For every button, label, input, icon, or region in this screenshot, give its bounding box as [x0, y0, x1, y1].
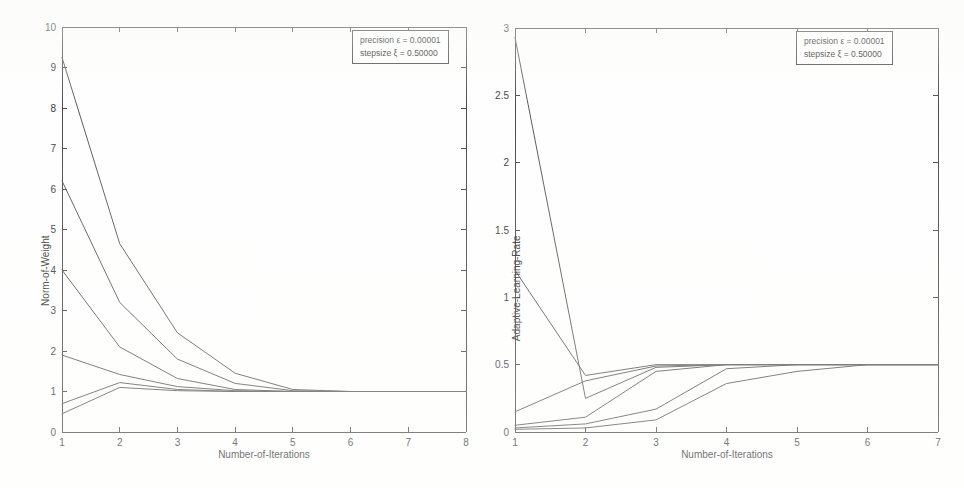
x-tick-label: 2 — [583, 437, 589, 448]
axis-lines-right — [515, 28, 938, 432]
series-line — [62, 57, 466, 391]
axes-left — [62, 27, 466, 432]
plot-svg-right: 1234567 00.511.522.53 Number-of-Iteratio… — [482, 0, 964, 488]
x-tick-label: 7 — [935, 437, 941, 448]
y-ticks-left — [62, 27, 466, 432]
plot-svg-left: 12345678 012345678910 Number-of-Iteratio… — [0, 0, 482, 488]
series-line — [515, 365, 938, 426]
y-tick-label: 2.5 — [495, 90, 509, 101]
y-tick-label: 2 — [503, 157, 509, 168]
axes-right — [515, 28, 938, 432]
y-tick-label: 1 — [503, 292, 509, 303]
series-line — [62, 355, 466, 391]
legend-right: precision ε = 0.00001 stepsize ξ = 0.500… — [796, 31, 893, 65]
series-group-right — [515, 37, 938, 429]
chart-panel-norm-of-weight: 12345678 012345678910 Number-of-Iteratio… — [0, 0, 482, 488]
y-tick-labels-left: 012345678910 — [45, 22, 57, 438]
y-tick-label: 6 — [50, 184, 56, 195]
legend-left-line2: stepsize ξ = 0.50000 — [360, 47, 441, 60]
legend-right-line2: stepsize ξ = 0.50000 — [804, 48, 885, 61]
y-tick-label: 1 — [50, 386, 56, 397]
x-tick-labels-left: 12345678 — [59, 437, 469, 448]
y-tick-label: 8 — [50, 103, 56, 114]
x-tick-label: 8 — [463, 437, 469, 448]
y-tick-label: 3 — [50, 305, 56, 316]
y-axis-title-left: Norm-of-Weight — [40, 236, 51, 306]
y-tick-labels-right: 00.511.522.53 — [495, 23, 509, 438]
y-tick-label: 5 — [50, 224, 56, 235]
axis-lines-left — [62, 27, 466, 432]
series-line — [62, 387, 466, 413]
legend-left: precision ε = 0.00001 stepsize ξ = 0.500… — [352, 30, 449, 64]
x-tick-label: 5 — [794, 437, 800, 448]
y-tick-label: 0 — [503, 427, 509, 438]
x-tick-label: 6 — [348, 437, 354, 448]
x-tick-label: 4 — [232, 437, 238, 448]
figure-canvas: 12345678 012345678910 Number-of-Iteratio… — [0, 0, 964, 488]
chart-panel-adaptive-learning-rate: 1234567 00.511.522.53 Number-of-Iteratio… — [482, 0, 964, 488]
y-ticks-right — [515, 28, 938, 432]
x-axis-title-left: Number-of-Iterations — [218, 449, 310, 460]
x-axis-title-right: Number-of-Iterations — [681, 449, 773, 460]
series-line — [62, 270, 466, 392]
series-line — [515, 365, 938, 412]
y-tick-label: 9 — [50, 62, 56, 73]
y-tick-label: 2 — [50, 346, 56, 357]
y-tick-label: 7 — [50, 143, 56, 154]
y-tick-label: 1.5 — [495, 225, 509, 236]
series-line — [515, 37, 938, 398]
legend-left-line1: precision ε = 0.00001 — [360, 34, 441, 47]
x-ticks-left — [62, 27, 466, 432]
x-tick-label: 1 — [512, 437, 518, 448]
x-tick-label: 3 — [175, 437, 181, 448]
x-tick-label: 6 — [865, 437, 871, 448]
x-tick-label: 3 — [653, 437, 659, 448]
y-axis-title-right: Adaptive-Learning-Rate — [511, 236, 522, 342]
x-tick-label: 5 — [290, 437, 296, 448]
series-line — [62, 181, 466, 392]
x-tick-label: 7 — [406, 437, 412, 448]
y-tick-label: 10 — [45, 22, 57, 33]
x-tick-label: 2 — [117, 437, 123, 448]
legend-right-line1: precision ε = 0.00001 — [804, 35, 885, 48]
y-tick-label: 4 — [50, 265, 56, 276]
series-group-left — [62, 57, 466, 413]
y-tick-label: 0.5 — [495, 359, 509, 370]
x-ticks-right — [515, 28, 938, 432]
series-line — [515, 365, 938, 430]
y-tick-label: 0 — [50, 427, 56, 438]
x-tick-label: 4 — [724, 437, 730, 448]
series-line — [62, 383, 466, 404]
x-tick-label: 1 — [59, 437, 65, 448]
x-tick-labels-right: 1234567 — [512, 437, 941, 448]
y-tick-label: 3 — [503, 23, 509, 34]
